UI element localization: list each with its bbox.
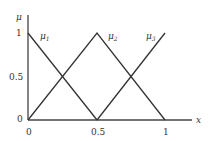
- membership-function-chart: μ 1 0.5 0 0 0.5 1 x μ1 μ2 μ3: [0, 0, 212, 141]
- y-tick-1: 1: [16, 28, 22, 38]
- label-mu3: μ3: [146, 31, 156, 42]
- x-tick-0.5: 0.5: [91, 127, 106, 137]
- x-tick-1: 1: [163, 127, 169, 137]
- series-mu2: [28, 33, 165, 120]
- y-tick-0: 0: [17, 114, 23, 124]
- x-tick-0: 0: [26, 127, 32, 137]
- label-mu2: μ2: [108, 31, 118, 42]
- x-axis-label: x: [196, 115, 201, 125]
- label-mu1: μ1: [40, 31, 50, 42]
- y-axis-label: μ: [16, 12, 22, 22]
- y-tick-0.5: 0.5: [9, 72, 24, 82]
